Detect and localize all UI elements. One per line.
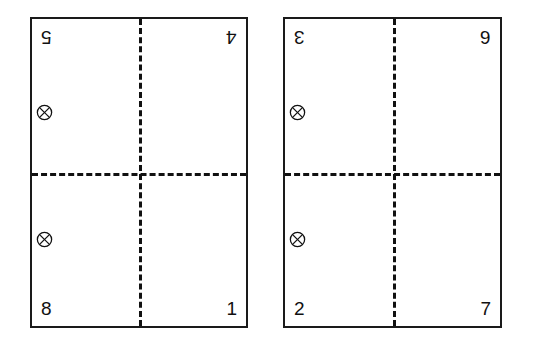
- left-panel-page-number-top-left: 5: [41, 28, 52, 47]
- imposition-sheet-diagram: 5 4 8 1 3 6 2 7: [0, 0, 533, 348]
- circled-x-icon: [289, 104, 306, 121]
- right-panel-horizontal-fold-line: [285, 173, 500, 176]
- left-panel-page-number-bottom-left: 8: [41, 299, 52, 318]
- left-panel-page-number-bottom-right: 1: [226, 299, 237, 318]
- right-panel-page-number-top-left: 3: [294, 28, 305, 47]
- right-panel-page-number-bottom-right: 7: [480, 299, 491, 318]
- left-panel-horizontal-fold-line: [32, 173, 246, 176]
- left-panel: 5 4 8 1: [30, 17, 248, 328]
- circled-x-icon: [289, 231, 306, 248]
- right-panel-page-number-top-right: 6: [480, 28, 491, 47]
- left-panel-page-number-top-right: 4: [226, 28, 237, 47]
- circled-x-icon: [36, 104, 53, 121]
- right-panel-page-number-bottom-left: 2: [294, 299, 305, 318]
- circled-x-icon: [36, 231, 53, 248]
- right-panel: 3 6 2 7: [283, 17, 502, 328]
